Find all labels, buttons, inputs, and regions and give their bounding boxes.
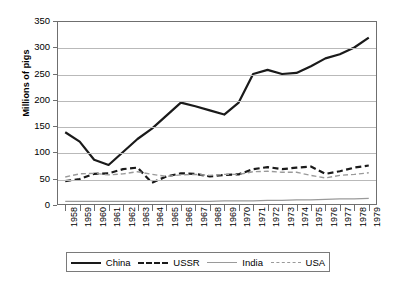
x-tick-label: 1973 — [286, 207, 296, 227]
y-tick-mark — [53, 74, 57, 75]
y-tick-label: 150 — [24, 121, 50, 131]
x-tick-label: 1958 — [69, 207, 79, 227]
legend-label: USA — [306, 257, 326, 268]
x-tick-label: 1979 — [372, 207, 382, 227]
y-tick-label: 100 — [24, 147, 50, 157]
y-tick-mark — [53, 152, 57, 153]
x-tick-label: 1977 — [343, 207, 353, 227]
legend-item-usa[interactable]: USA — [271, 257, 326, 268]
x-tick-label: 1969 — [228, 207, 238, 227]
x-tick-label: 1962 — [127, 207, 137, 227]
legend-swatch-india-icon — [207, 258, 237, 266]
x-tick-label: 1971 — [257, 207, 267, 227]
x-tick-label: 1974 — [300, 207, 310, 227]
x-tick-label: 1959 — [83, 207, 93, 227]
x-tick-label: 1976 — [329, 207, 339, 227]
legend-swatch-usa-icon — [271, 258, 301, 266]
legend-label: China — [106, 257, 131, 268]
y-tick-mark — [53, 100, 57, 101]
x-tick-label: 1966 — [184, 207, 194, 227]
x-tick-label: 1965 — [170, 207, 180, 227]
y-tick-mark — [53, 179, 57, 180]
x-tick-label: 1972 — [271, 207, 281, 227]
pig-population-line-chart: Millions of pigs 050100150200250300350 1… — [0, 0, 395, 282]
x-tick-label: 1964 — [155, 207, 165, 227]
x-axis-tick-labels: 1958195919601961196219631964196519661967… — [57, 211, 377, 247]
y-tick-label: 0 — [24, 200, 50, 210]
legend-item-ussr[interactable]: USSR — [138, 257, 199, 268]
y-axis-tick-marks — [57, 21, 377, 205]
legend-swatch-ussr-icon — [138, 258, 168, 266]
x-tick-label: 1968 — [213, 207, 223, 227]
y-tick-label: 300 — [24, 42, 50, 52]
y-axis-tick-labels: 050100150200250300350 — [22, 0, 50, 282]
y-tick-label: 50 — [24, 174, 50, 184]
x-tick-label: 1963 — [141, 207, 151, 227]
y-tick-label: 250 — [24, 69, 50, 79]
x-tick-label: 1961 — [112, 207, 122, 227]
y-tick-mark — [53, 126, 57, 127]
y-tick-label: 350 — [24, 16, 50, 26]
x-tick-label: 1967 — [199, 207, 209, 227]
chart-legend: ChinaUSSRIndiaUSA — [66, 252, 330, 272]
legend-item-china[interactable]: China — [71, 257, 131, 268]
x-tick-label: 1978 — [358, 207, 368, 227]
legend-item-india[interactable]: India — [207, 257, 263, 268]
x-tick-label: 1960 — [98, 207, 108, 227]
y-tick-mark — [53, 47, 57, 48]
legend-label: India — [242, 257, 263, 268]
legend-swatch-china-icon — [71, 258, 101, 266]
legend-label: USSR — [173, 257, 199, 268]
x-tick-label: 1975 — [314, 207, 324, 227]
y-tick-mark — [53, 21, 57, 22]
x-tick-label: 1970 — [242, 207, 252, 227]
y-tick-label: 200 — [24, 95, 50, 105]
